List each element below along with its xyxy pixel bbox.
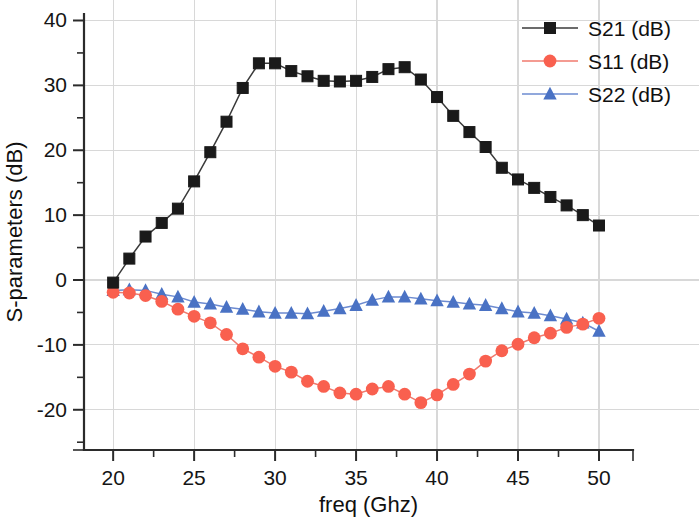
data-point-circle bbox=[398, 388, 411, 401]
chart-container: -20-1001020304020253035404550 freq (Ghz)… bbox=[0, 0, 699, 526]
x-tick-label: 50 bbox=[587, 466, 610, 489]
legend-layer: S21 (dB)S11 (dB)S22 (dB) bbox=[522, 17, 671, 106]
data-point-triangle bbox=[382, 290, 395, 303]
data-point-circle bbox=[253, 351, 266, 364]
data-point-square bbox=[593, 220, 604, 231]
data-point-square bbox=[286, 66, 297, 77]
data-point-square bbox=[237, 82, 248, 93]
data-point-square bbox=[367, 71, 378, 82]
data-point-circle bbox=[350, 388, 363, 401]
data-point-circle bbox=[414, 396, 427, 409]
legend-item-s11[interactable]: S11 (dB) bbox=[522, 50, 669, 73]
data-point-circle bbox=[317, 380, 330, 393]
data-point-triangle bbox=[285, 306, 298, 319]
data-point-circle bbox=[431, 388, 444, 401]
data-point-square bbox=[140, 231, 151, 242]
data-point-square bbox=[253, 58, 264, 69]
data-point-square bbox=[205, 147, 216, 158]
data-point-square bbox=[480, 142, 491, 153]
data-point-square bbox=[561, 200, 572, 211]
x-tick-label: 40 bbox=[425, 466, 448, 489]
data-point-square bbox=[156, 217, 167, 228]
data-point-square bbox=[318, 75, 329, 86]
data-point-circle bbox=[236, 342, 249, 355]
data-point-circle bbox=[528, 331, 541, 344]
y-tick-label: 20 bbox=[44, 138, 67, 161]
y-tick-label: -10 bbox=[37, 333, 67, 356]
data-point-circle bbox=[479, 355, 492, 368]
data-point-circle bbox=[366, 383, 379, 396]
data-point-circle bbox=[333, 387, 346, 400]
data-point-circle bbox=[301, 375, 314, 388]
x-tick-label: 30 bbox=[263, 466, 286, 489]
data-point-square bbox=[270, 58, 281, 69]
data-point-square bbox=[189, 176, 200, 187]
data-point-square bbox=[172, 203, 183, 214]
data-point-square bbox=[351, 75, 362, 86]
legend-label: S11 (dB) bbox=[588, 50, 669, 73]
data-point-circle bbox=[495, 344, 508, 357]
data-point-circle bbox=[220, 328, 233, 341]
data-point-circle bbox=[172, 303, 185, 316]
x-tick-label: 20 bbox=[101, 466, 124, 489]
data-point-circle bbox=[447, 378, 460, 391]
data-point-square bbox=[383, 64, 394, 75]
data-point-triangle bbox=[398, 290, 411, 303]
data-point-square bbox=[399, 62, 410, 73]
s-parameter-line-chart: -20-1001020304020253035404550 freq (Ghz)… bbox=[0, 0, 699, 526]
data-point-circle bbox=[285, 366, 298, 379]
data-point-circle bbox=[123, 287, 136, 300]
data-point-circle bbox=[155, 295, 168, 308]
data-point-triangle bbox=[543, 87, 556, 100]
data-point-circle bbox=[139, 289, 152, 302]
data-point-square bbox=[464, 127, 475, 138]
y-tick-label: 10 bbox=[44, 203, 67, 226]
legend-item-s22[interactable]: S22 (dB) bbox=[522, 83, 671, 106]
data-point-circle bbox=[382, 380, 395, 393]
data-point-square bbox=[302, 71, 313, 82]
y-axis-title: S-parameters (dB) bbox=[2, 142, 27, 323]
data-point-square bbox=[529, 182, 540, 193]
x-tick-label: 45 bbox=[506, 466, 529, 489]
x-axis-title: freq (Ghz) bbox=[319, 492, 418, 517]
data-point-square bbox=[108, 277, 119, 288]
legend-label: S22 (dB) bbox=[588, 83, 671, 106]
data-point-square bbox=[577, 210, 588, 221]
data-point-square bbox=[221, 116, 232, 127]
data-point-circle bbox=[512, 338, 525, 351]
data-point-circle bbox=[544, 327, 557, 340]
y-tick-label: -20 bbox=[37, 398, 67, 421]
data-point-circle bbox=[204, 316, 217, 329]
data-point-square bbox=[513, 174, 524, 185]
x-tick-label: 35 bbox=[344, 466, 367, 489]
data-point-square bbox=[496, 162, 507, 173]
y-tick-label: 40 bbox=[44, 8, 67, 31]
legend-label: S21 (dB) bbox=[588, 17, 671, 40]
y-tick-label: 30 bbox=[44, 73, 67, 96]
data-point-square bbox=[124, 253, 135, 264]
data-point-circle bbox=[269, 360, 282, 373]
data-point-square bbox=[415, 74, 426, 85]
data-point-circle bbox=[560, 321, 573, 334]
data-point-square bbox=[448, 110, 459, 121]
data-point-square bbox=[432, 92, 443, 103]
data-point-circle bbox=[576, 318, 589, 331]
data-point-triangle bbox=[592, 324, 605, 337]
data-point-circle bbox=[544, 55, 557, 68]
data-point-circle bbox=[188, 310, 201, 323]
data-point-square bbox=[334, 76, 345, 87]
data-point-circle bbox=[593, 312, 606, 325]
data-point-circle bbox=[463, 368, 476, 381]
data-point-square bbox=[545, 23, 556, 34]
data-point-square bbox=[545, 191, 556, 202]
y-tick-label: 0 bbox=[55, 268, 67, 291]
x-tick-label: 25 bbox=[182, 466, 205, 489]
